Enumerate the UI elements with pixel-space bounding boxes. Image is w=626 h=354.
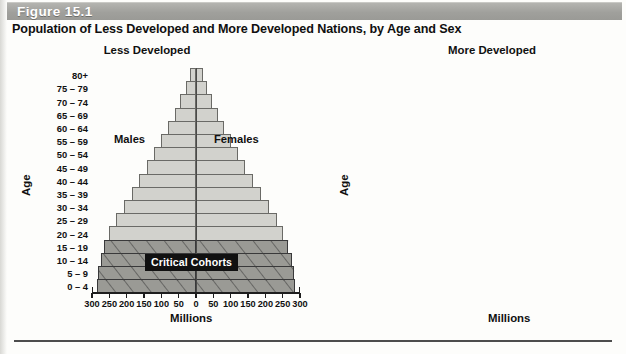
axis-cap-left: [92, 287, 93, 292]
bar-female-80+: [196, 68, 203, 82]
bar-female-4044: [196, 174, 253, 188]
bar-male-1519: [104, 240, 196, 254]
x-axis-tick: [247, 293, 248, 298]
age-group-label: 80+: [72, 71, 88, 80]
panel-title-less-developed: Less Developed: [0, 44, 312, 56]
bar-male-4044: [139, 174, 196, 188]
x-axis-tick: [195, 293, 196, 298]
bar-male-7074: [180, 94, 196, 108]
age-group-label: 15 – 19: [57, 243, 88, 252]
x-axis-label-right: Millions: [488, 312, 530, 324]
bar-male-3539: [132, 187, 196, 201]
bar-male-6064: [168, 121, 196, 135]
age-group-label: 25 – 29: [57, 216, 88, 225]
age-group-label: 65 – 69: [57, 111, 88, 120]
legend-label-males: Males: [114, 133, 145, 145]
pyramid-plot-less-developed: 30025020015010050050100150200250300Males…: [92, 62, 300, 306]
y-axis-label-left: Age: [20, 175, 32, 197]
age-group-label: 60 – 64: [57, 124, 88, 133]
bar-female-2024: [196, 226, 283, 240]
y-axis-label-right: Age: [338, 175, 350, 197]
bar-male-5559: [161, 134, 196, 148]
bar-female-2529: [196, 213, 277, 227]
x-axis-tick: [91, 293, 92, 298]
age-group-label: 0 – 4: [67, 282, 88, 291]
x-axis-tick-label: 300: [286, 299, 314, 309]
critical-cohorts-badge: Critical Cohorts: [145, 254, 238, 271]
x-axis-tick: [161, 293, 162, 298]
age-group-label: 20 – 24: [57, 230, 88, 239]
chart-panel-more-developed: More Developed Age Millions 80+75 – 7970…: [318, 44, 626, 334]
bar-male-04: [97, 279, 196, 293]
bar-male-6569: [175, 108, 196, 122]
bar-female-4549: [196, 160, 245, 174]
bottom-divider: [14, 340, 612, 342]
x-axis-tick: [230, 293, 231, 298]
bar-female-3034: [196, 200, 269, 214]
bar-female-1519: [196, 240, 288, 254]
bar-female-04: [196, 279, 295, 293]
bar-female-6569: [196, 108, 218, 122]
age-group-label: 55 – 59: [57, 137, 88, 146]
x-axis-tick: [213, 293, 214, 298]
bar-female-5054: [196, 147, 238, 161]
bar-male-2529: [116, 213, 196, 227]
x-axis-label-left: Millions: [170, 312, 212, 324]
bar-male-3034: [124, 200, 196, 214]
legend-label-females: Females: [214, 133, 259, 145]
age-group-label: 10 – 14: [57, 256, 88, 265]
bar-female-3539: [196, 187, 261, 201]
chart-panel-less-developed: Less Developed Age Millions 80+75 – 7970…: [0, 44, 330, 334]
x-axis-tick: [109, 293, 110, 298]
panel-title-more-developed: More Developed: [338, 44, 626, 56]
age-group-label: 35 – 39: [57, 190, 88, 199]
age-group-label: 75 – 79: [57, 84, 88, 93]
bar-male-2024: [109, 226, 196, 240]
bar-male-5054: [154, 147, 196, 161]
bar-female-7579: [196, 81, 207, 95]
figure-header-bar: Figure 15.1: [4, 2, 622, 20]
age-group-label: 30 – 34: [57, 203, 88, 212]
x-axis-tick: [282, 293, 283, 298]
figure-container: Figure 15.1 Population of Less Developed…: [0, 0, 626, 354]
x-axis-tick: [299, 293, 300, 298]
age-group-label: 70 – 74: [57, 98, 88, 107]
bar-female-7074: [196, 94, 212, 108]
x-axis-tick: [178, 293, 179, 298]
x-axis-tick: [126, 293, 127, 298]
age-group-label: 50 – 54: [57, 150, 88, 159]
bar-male-4549: [147, 160, 196, 174]
bar-male-7579: [186, 81, 196, 95]
age-group-label: 45 – 49: [57, 164, 88, 173]
figure-number-label: Figure 15.1: [17, 3, 93, 20]
figure-title: Population of Less Developed and More De…: [12, 22, 461, 36]
x-axis-tick: [265, 293, 266, 298]
age-group-label: 40 – 44: [57, 177, 88, 186]
x-axis-tick: [143, 293, 144, 298]
axis-cap-right: [299, 287, 300, 292]
age-group-label: 5 – 9: [67, 269, 88, 278]
